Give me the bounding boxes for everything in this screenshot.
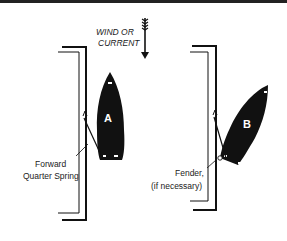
boat-b-label: B: [243, 118, 251, 130]
top-border: [0, 0, 287, 3]
spring-line-b: [213, 110, 226, 158]
wind-arrow-icon: [141, 18, 149, 59]
pier-a: [58, 47, 86, 220]
wind-label-line2: CURRENT: [98, 38, 140, 48]
fender-label-line1: Fender,: [175, 168, 204, 178]
wind-label-line1: WIND OR: [96, 27, 134, 37]
docking-diagram: WIND OR CURRENT A B Forward Quarter Spri…: [0, 0, 287, 241]
boat-a-label: A: [104, 112, 112, 124]
fender-icon: [218, 156, 222, 160]
spring-label-line1: Forward: [35, 159, 66, 169]
spring-label-line2: Quarter Spring: [23, 171, 79, 181]
fender-label-line2: (if necessary): [151, 181, 202, 191]
